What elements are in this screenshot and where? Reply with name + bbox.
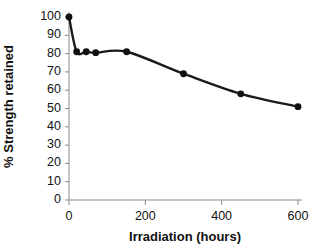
- data-point-marker: [83, 48, 90, 55]
- y-tick-label: 60: [27, 82, 61, 96]
- series-line: [69, 17, 298, 107]
- x-tick-label: 200: [125, 209, 165, 223]
- axis-lines: [69, 12, 302, 200]
- y-tick-label: 20: [27, 155, 61, 169]
- y-tick-label: 50: [27, 101, 61, 115]
- x-tick-label: 600: [278, 209, 318, 223]
- data-point-marker: [295, 103, 302, 110]
- y-tick-label: 30: [27, 137, 61, 151]
- y-tick-label: 0: [27, 192, 61, 206]
- y-tick-label: 90: [27, 27, 61, 41]
- x-tick-label: 400: [202, 209, 242, 223]
- chart-container: % Strength retained 01020304050607080901…: [0, 0, 329, 251]
- y-tick-label: 40: [27, 119, 61, 133]
- data-point-marker: [92, 49, 99, 56]
- data-point-marker: [66, 14, 73, 21]
- data-point-marker: [237, 90, 244, 97]
- y-axis-ticks: [65, 17, 69, 200]
- data-point-marker: [180, 70, 187, 77]
- x-tick-label: 0: [49, 209, 89, 223]
- y-tick-label: 80: [27, 46, 61, 60]
- y-tick-label: 10: [27, 174, 61, 188]
- data-point-marker: [73, 48, 80, 55]
- y-tick-label: 100: [27, 9, 61, 23]
- data-point-marker: [123, 48, 130, 55]
- series-markers: [66, 14, 302, 110]
- y-tick-label: 70: [27, 64, 61, 78]
- x-axis-title: Irradiation (hours): [69, 229, 301, 244]
- x-axis-ticks: [69, 200, 298, 205]
